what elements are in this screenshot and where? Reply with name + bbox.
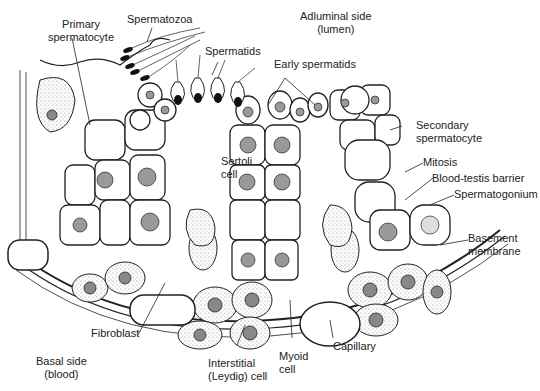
label-early-spermatids: Early spermatids: [274, 58, 356, 71]
label-myoid-cell: Myoid cell: [279, 350, 308, 376]
label-line: membrane: [468, 245, 521, 258]
label-primary-spermatocyte: Primary spermatocyte: [48, 18, 114, 44]
label-spermatids: Spermatids: [205, 45, 261, 58]
label-interstitial-leydig-cell: Interstitial (Leydig) cell: [208, 357, 267, 383]
label-spermatogonium: Spermatogonium: [454, 188, 538, 201]
label-line: Primary: [48, 18, 114, 31]
label-line: (blood): [36, 368, 87, 381]
label-line: Myoid: [279, 350, 308, 363]
label-line: cell: [279, 363, 308, 376]
diagram-canvas: Primary spermatocyte Spermatozoa Adlumin…: [0, 0, 540, 391]
label-mitosis: Mitosis: [423, 156, 457, 169]
label-spermatozoa: Spermatozoa: [127, 13, 192, 26]
label-secondary-spermatocyte: Secondary spermatocyte: [416, 119, 482, 145]
label-line: cell: [221, 168, 252, 181]
label-basement-membrane: Basement membrane: [468, 232, 521, 258]
label-fibroblast: Fibroblast: [91, 327, 139, 340]
label-line: Sertoli: [221, 155, 252, 168]
label-capillary: Capillary: [333, 340, 376, 353]
label-line: spermatocyte: [416, 132, 482, 145]
label-line: Secondary: [416, 119, 482, 132]
label-line: Interstitial: [208, 357, 267, 370]
label-line: Basement: [468, 232, 521, 245]
label-adluminal-side: Adluminal side (lumen): [300, 10, 372, 36]
label-basal-side: Basal side (blood): [36, 355, 87, 381]
label-line: (Leydig) cell: [208, 370, 267, 383]
label-line: Adluminal side: [300, 10, 372, 23]
label-line: (lumen): [300, 23, 372, 36]
label-line: spermatocyte: [48, 31, 114, 44]
label-blood-testis-barrier: Blood-testis barrier: [432, 172, 524, 185]
label-line: Basal side: [36, 355, 87, 368]
label-sertoli-cell: Sertoli cell: [221, 155, 252, 181]
